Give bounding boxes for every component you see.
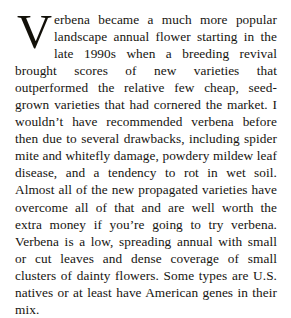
- paragraph-verbena: Verbena became a much more popular lands…: [15, 11, 277, 318]
- paragraph-text: erbena became a much more popular landsc…: [15, 12, 277, 317]
- article-body: Verbena became a much more popular lands…: [15, 11, 277, 318]
- drop-cap-letter: V: [17, 13, 52, 52]
